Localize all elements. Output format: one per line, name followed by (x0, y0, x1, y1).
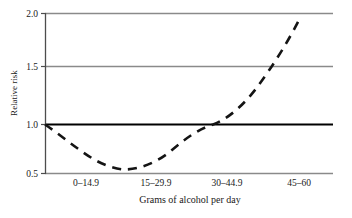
relative-risk-line-chart: 2.0 1.5 1.0 0.5 Relative risk 0–14.9 15–… (0, 0, 352, 218)
x-axis-title: Grams of alcohol per day (139, 194, 241, 205)
chart-figure: 2.0 1.5 1.0 0.5 Relative risk 0–14.9 15–… (0, 0, 352, 218)
y-tick-label-0-5: 0.5 (26, 169, 38, 179)
y-tick-label-1-5: 1.5 (26, 62, 38, 72)
y-axis-title: Relative risk (9, 70, 19, 116)
x-tick-label-0: 0–14.9 (73, 178, 99, 188)
x-tick-label-3: 45–60 (287, 178, 311, 188)
y-tick-label-1-0: 1.0 (26, 120, 38, 130)
x-tick-label-2: 30–44.9 (212, 178, 243, 188)
y-tick-label-2-0: 2.0 (26, 9, 38, 19)
x-tick-label-1: 15–29.9 (141, 178, 172, 188)
